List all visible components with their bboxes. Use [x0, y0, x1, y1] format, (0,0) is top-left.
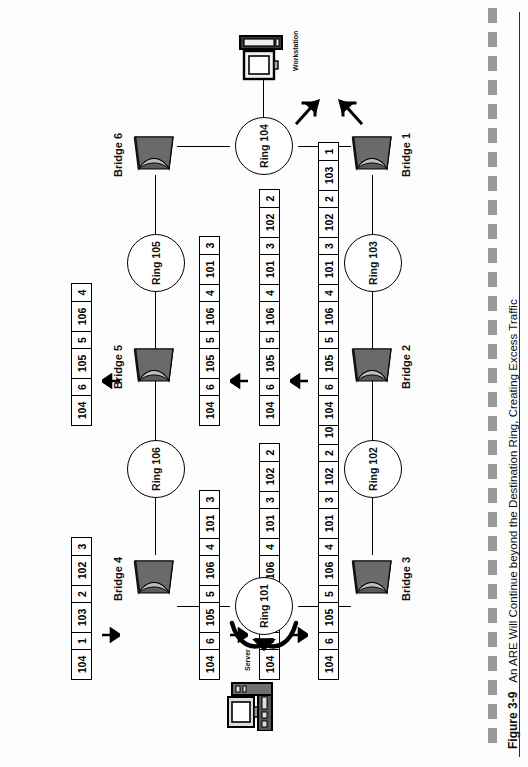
dash-mark — [488, 440, 497, 455]
flow-arrow-to-workstation-top — [295, 95, 323, 125]
frame-cell: 102 — [260, 207, 279, 237]
bridge-2-label: Bridge 2 — [400, 345, 412, 389]
bridge-1[interactable] — [349, 129, 395, 175]
frame-cell: 106 — [260, 301, 279, 331]
computer-icon — [226, 673, 278, 731]
flow-arrow-to-workstation-bottom — [335, 95, 363, 125]
bridge-6[interactable] — [131, 129, 177, 175]
bridge-4[interactable] — [131, 553, 177, 599]
frame-cell: 4 — [72, 284, 91, 301]
frame-cell: 1 — [72, 632, 91, 649]
frame-cell: 101 — [200, 508, 219, 538]
frame-cell: 104 — [260, 395, 279, 425]
ring-105-label: Ring 105 — [150, 241, 162, 285]
ring-105[interactable]: Ring 105 — [127, 234, 185, 292]
frame-cell: 102 — [72, 555, 91, 585]
diagram-rotation-wrapper: Ring 101 Ring 106 Ring 105 Ring 102 Ring… — [0, 0, 528, 767]
workstation-label: Workstation — [292, 31, 299, 71]
ring-103[interactable]: Ring 103 — [344, 234, 402, 292]
frame-cell: 101 — [260, 508, 279, 538]
ring-102[interactable]: Ring 102 — [344, 440, 402, 498]
bridge-5[interactable] — [131, 341, 177, 387]
ring-102-label: Ring 102 — [367, 447, 379, 491]
frame-cell: 3 — [200, 491, 219, 508]
caption-rule — [519, 12, 520, 757]
dash-mark — [488, 680, 497, 695]
frame-cell: 2 — [260, 190, 279, 207]
link-ring104-bridge6 — [177, 146, 230, 147]
bridge-icon — [131, 129, 177, 175]
frame-cell: 5 — [200, 585, 219, 602]
frame-bridge1-in: 104610551064101310221031 — [318, 142, 339, 426]
ring-104[interactable]: Ring 104 — [235, 117, 293, 175]
dash-mark — [488, 200, 497, 215]
link-bridge4-ring106 — [155, 493, 156, 555]
ring-104-label: Ring 104 — [258, 124, 270, 168]
frame-cell: 106 — [200, 555, 219, 585]
frame-bridge3-in: 1046105510641013 — [199, 236, 220, 426]
figure-page: Ring 101 Ring 106 Ring 105 Ring 102 Ring… — [0, 0, 528, 767]
frame-cell: 101 — [260, 254, 279, 284]
frame-bridge6-in: 104610551064101310221031 — [318, 396, 339, 680]
frame-cell: 102 — [260, 461, 279, 491]
bridge-icon — [349, 553, 395, 599]
frame-cell: 2 — [260, 444, 279, 461]
dash-mark — [488, 248, 497, 263]
link-ring106-bridge5 — [155, 381, 156, 443]
dash-mark — [488, 392, 497, 407]
frame-cell: 2 — [72, 585, 91, 602]
frame-cell: 4 — [260, 538, 279, 555]
dash-mark — [488, 368, 497, 383]
dash-mark — [488, 56, 497, 71]
dash-mark — [488, 152, 497, 167]
dash-mark — [488, 464, 497, 479]
frame-cell: 6 — [200, 378, 219, 395]
dash-mark — [488, 320, 497, 335]
frame-cell: 4 — [200, 538, 219, 555]
bridge-2[interactable] — [349, 341, 395, 387]
bridge-icon — [349, 341, 395, 387]
ring-106[interactable]: Ring 106 — [127, 440, 185, 498]
computer-icon — [238, 31, 286, 81]
frame-cell: 4 — [319, 284, 338, 301]
frame-cell: 105 — [200, 602, 219, 632]
bridge-icon — [349, 129, 395, 175]
frame-bridge4-in: 1046105510641013 — [199, 490, 220, 680]
dash-mark — [488, 128, 497, 143]
flow-arrow-down-1 — [102, 373, 120, 389]
frame-cell: 105 — [72, 348, 91, 378]
dash-mark — [488, 632, 497, 647]
workstation-computer[interactable] — [238, 31, 286, 81]
dash-mark — [488, 296, 497, 311]
dash-mark — [488, 656, 497, 671]
frame-cell: 104 — [200, 395, 219, 425]
dash-mark — [488, 704, 497, 719]
link-ring105-bridge6 — [155, 175, 156, 237]
bridge-3[interactable] — [349, 553, 395, 599]
network-diagram: Ring 101 Ring 106 Ring 105 Ring 102 Ring… — [0, 0, 528, 767]
frame-cell: 3 — [72, 538, 91, 555]
frame-cell: 5 — [260, 331, 279, 348]
dash-mark — [488, 584, 497, 599]
dash-mark — [488, 176, 497, 191]
frame-cell: 6 — [200, 632, 219, 649]
frame-cell: 103 — [72, 602, 91, 632]
link-bridge3-ring102 — [372, 493, 373, 555]
frame-cell: 6 — [319, 632, 338, 649]
dash-mark — [488, 536, 497, 551]
frame-cell: 4 — [260, 284, 279, 301]
bridge-1-label: Bridge 1 — [400, 133, 412, 177]
frame-bridge3-out: 104610551064 — [71, 283, 92, 426]
frame-cell: 106 — [200, 301, 219, 331]
link-ring102-bridge2 — [372, 381, 373, 443]
flow-arrow-down-2 — [230, 373, 248, 389]
frame-cell: 6 — [319, 378, 338, 395]
dash-mark — [488, 608, 497, 623]
frame-cell: 105 — [319, 602, 338, 632]
frame-cell: 5 — [200, 331, 219, 348]
token-direction-arrow — [222, 615, 310, 659]
frame-cell: 105 — [319, 348, 338, 378]
server-computer[interactable] — [226, 673, 278, 731]
frame-cell: 105 — [200, 348, 219, 378]
dash-mark — [488, 512, 497, 527]
